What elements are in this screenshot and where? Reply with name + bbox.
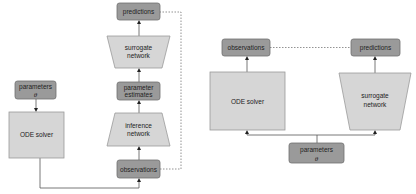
surrogate-network-block-right: surrogate network (339, 73, 411, 130)
inference-network-block: inference network (107, 113, 170, 146)
predictions-box: predictions (117, 3, 160, 20)
predictions-label-right: predictions (360, 44, 392, 52)
parameters-label: parameters (19, 83, 53, 91)
estimates-label-2: estimates (125, 91, 154, 98)
theta-symbol: θ (34, 91, 38, 99)
theta-symbol-right: θ (315, 155, 319, 163)
ode-solver-label: ODE solver (20, 131, 54, 138)
predictions-label: predictions (123, 8, 155, 16)
ode-solver-label-right: ODE solver (231, 98, 265, 105)
parameter-estimates-box: parameter estimates (117, 82, 160, 100)
observations-box: observations (117, 160, 160, 178)
ode-solver-box: ODE solver (9, 112, 64, 158)
surrogate-label-2-right: network (364, 101, 388, 108)
observations-label: observations (120, 166, 158, 173)
inference-label-1: inference (125, 122, 152, 129)
observations-label-right: observations (228, 44, 266, 51)
inference-label-2: network (127, 130, 151, 137)
ode-solver-box-right: ODE solver (210, 72, 285, 130)
right-diagram: observations predictions ODE solver surr… (210, 39, 411, 163)
parameters-box: parameters θ (15, 81, 56, 99)
surrogate-label-2: network (127, 52, 151, 59)
surrogate-network-block: surrogate network (107, 36, 170, 68)
diagram-canvas: predictions surrogate network parameter … (0, 0, 416, 194)
predictions-box-right: predictions (351, 39, 400, 56)
left-diagram: predictions surrogate network parameter … (9, 3, 181, 188)
surrogate-label-1-right: surrogate (361, 92, 389, 100)
parameters-box-right: parameters θ (289, 143, 344, 163)
observations-box-right: observations (222, 39, 270, 56)
parameters-label-right: parameters (300, 146, 334, 154)
surrogate-label-1: surrogate (125, 44, 153, 52)
